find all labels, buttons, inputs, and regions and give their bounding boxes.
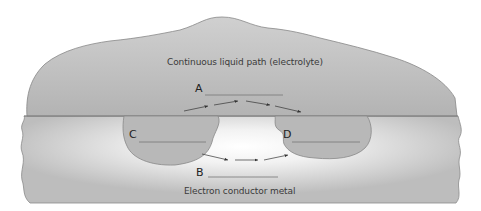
label-c: C — [129, 128, 137, 141]
corrosion-cell-diagram: Continuous liquid path (electrolyte) Ele… — [0, 0, 481, 211]
electrolyte-label: Continuous liquid path (electrolyte) — [167, 57, 323, 67]
diagram-graphic — [0, 0, 481, 211]
label-b: B — [196, 166, 204, 179]
label-a: A — [195, 82, 203, 95]
metal-label: Electron conductor metal — [184, 186, 295, 196]
label-d: D — [283, 128, 291, 141]
